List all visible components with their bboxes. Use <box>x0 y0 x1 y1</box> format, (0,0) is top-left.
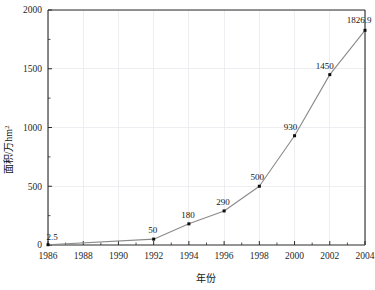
chart-container: 1986198819901992199419961998200020022004… <box>0 0 375 290</box>
x-axis-tick-label: 2002 <box>320 251 339 261</box>
x-axis-tick-label: 1990 <box>109 251 128 261</box>
data-point-marker <box>223 209 226 212</box>
data-point-marker <box>187 222 190 225</box>
y-axis-title: 面积/万hm2 <box>3 126 14 175</box>
data-point-label: 1826.9 <box>347 15 372 25</box>
data-point-marker <box>364 29 367 32</box>
x-axis-title-text: 年份 <box>196 272 216 284</box>
data-point-label: 1450 <box>316 61 335 71</box>
x-axis-tick-label: 1992 <box>144 251 163 261</box>
y-axis-tick-label: 500 <box>28 182 43 192</box>
x-axis-tick-label: 1986 <box>39 251 58 261</box>
data-point-marker <box>328 73 331 76</box>
y-axis-tick-label: 2000 <box>23 5 42 15</box>
data-point-marker <box>47 243 50 246</box>
y-axis-tick-label: 0 <box>37 240 42 250</box>
y-axis-tick-label: 1500 <box>23 64 42 74</box>
data-point-marker <box>293 134 296 137</box>
x-axis-tick-label: 2004 <box>356 251 375 261</box>
data-point-label: 180 <box>181 210 195 220</box>
x-axis-tick-label: 2000 <box>285 251 304 261</box>
data-point-marker <box>152 238 155 241</box>
data-point-label: 50 <box>148 225 158 235</box>
data-point-label: 290 <box>216 197 230 207</box>
data-point-label: 2.5 <box>46 232 58 242</box>
data-point-label: 930 <box>284 122 298 132</box>
y-axis-title-text: 面积/万hm2 <box>3 126 14 175</box>
x-axis-tick-label: 1988 <box>74 251 93 261</box>
chart-background <box>0 0 375 290</box>
x-axis-tick-label: 1998 <box>250 251 269 261</box>
y-axis-tick-label: 1000 <box>23 123 42 133</box>
x-axis-tick-label: 1996 <box>215 251 234 261</box>
data-point-label: 500 <box>251 172 265 182</box>
line-chart: 1986198819901992199419961998200020022004… <box>0 0 375 290</box>
data-point-marker <box>258 185 261 188</box>
x-axis-tick-label: 1994 <box>179 251 198 261</box>
